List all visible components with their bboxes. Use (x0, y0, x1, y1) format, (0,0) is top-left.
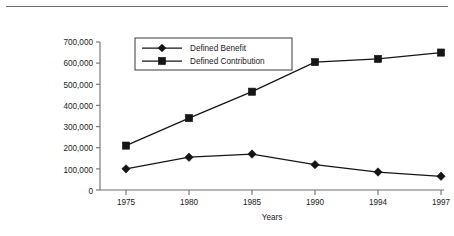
defined-benefit-line (126, 154, 441, 176)
square-marker (374, 55, 381, 62)
y-tick-label-500000: 500,000 (63, 81, 93, 90)
x-axis (100, 190, 444, 195)
x-axis-tick-labels: 1975 1980 1985 1990 1994 1997 (117, 198, 451, 207)
y-axis (96, 42, 100, 190)
square-marker (437, 49, 444, 56)
legend-label-defined-benefit: Defined Benefit (190, 44, 247, 53)
line-chart: 700,000 600,000 500,000 400,000 300,000 … (0, 0, 454, 236)
x-tick-label-1994: 1994 (369, 198, 388, 207)
series-defined-benefit (122, 150, 445, 181)
square-icon (158, 57, 165, 64)
y-tick-label-0: 0 (88, 187, 93, 196)
defined-benefit-markers (122, 150, 445, 181)
diamond-marker (185, 153, 193, 161)
square-marker (185, 115, 192, 122)
y-axis-tick-labels: 700,000 600,000 500,000 400,000 300,000 … (63, 38, 93, 196)
diamond-marker (122, 165, 130, 173)
y-tick-label-600000: 600,000 (63, 59, 93, 68)
diamond-marker (437, 172, 445, 180)
chart-figure: 700,000 600,000 500,000 400,000 300,000 … (0, 0, 454, 236)
x-tick-label-1985: 1985 (243, 198, 262, 207)
y-tick-label-300000: 300,000 (63, 123, 93, 132)
diamond-marker (311, 160, 319, 168)
diamond-marker (374, 168, 382, 176)
square-marker (122, 142, 129, 149)
x-tick-label-1997: 1997 (432, 198, 451, 207)
y-tick-label-200000: 200,000 (63, 144, 93, 153)
x-tick-label-1980: 1980 (180, 198, 199, 207)
chart-legend: Defined Benefit Defined Contribution (135, 38, 292, 70)
x-tick-label-1990: 1990 (306, 198, 325, 207)
square-marker (311, 58, 318, 65)
x-axis-title: Years (262, 213, 283, 222)
y-tick-label-100000: 100,000 (63, 166, 93, 175)
diamond-marker (248, 150, 256, 158)
legend-label-defined-contribution: Defined Contribution (190, 57, 265, 66)
y-tick-label-700000: 700,000 (63, 38, 93, 47)
square-marker (248, 88, 255, 95)
y-tick-label-400000: 400,000 (63, 102, 93, 111)
x-tick-label-1975: 1975 (117, 198, 136, 207)
